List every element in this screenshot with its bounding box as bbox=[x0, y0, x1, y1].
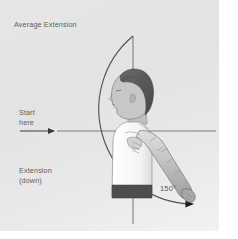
diagram-title: Average Extension bbox=[14, 20, 77, 30]
ear-marking bbox=[130, 94, 135, 102]
extension-direction-label: Extension (down) bbox=[19, 166, 52, 185]
range-of-motion-diagram: Average Extension Start here Extension (… bbox=[0, 0, 238, 239]
start-label-line1: Start bbox=[19, 108, 35, 117]
human-figure bbox=[109, 69, 195, 202]
diagram-canvas bbox=[0, 0, 238, 239]
extension-label-line2: (down) bbox=[19, 176, 42, 185]
extension-label-line1: Extension bbox=[19, 166, 52, 175]
waistband bbox=[112, 185, 152, 198]
hand-shape bbox=[182, 189, 195, 202]
angle-value-label: 150° bbox=[160, 184, 176, 194]
start-label-line2: here bbox=[19, 118, 34, 127]
start-here-label: Start here bbox=[19, 108, 35, 127]
